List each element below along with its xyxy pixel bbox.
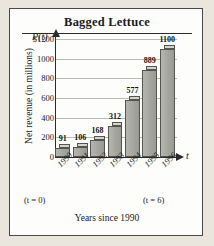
bar-value-label: 889	[137, 56, 162, 65]
bar-value-label: 577	[120, 86, 145, 95]
x-axis-title: Years since 1990	[10, 213, 204, 223]
page-background: Bagged Lettuce Net revenue (in millions)…	[0, 0, 214, 246]
plot-area: Net revenue (in millions) P(t) t 0200400…	[10, 9, 204, 237]
bar-front-face	[142, 70, 157, 157]
annotation-t-six: (t = 6)	[143, 195, 164, 205]
chart-panel: Bagged Lettuce Net revenue (in millions)…	[9, 8, 203, 236]
bar-value-label: 312	[103, 112, 128, 121]
bar-front-face	[160, 49, 175, 157]
bar-value-label: 168	[85, 126, 110, 135]
annotation-t-zero: (t = 0)	[24, 195, 45, 205]
bar-value-label: 1100	[155, 35, 180, 44]
bar-front-face	[125, 100, 140, 157]
